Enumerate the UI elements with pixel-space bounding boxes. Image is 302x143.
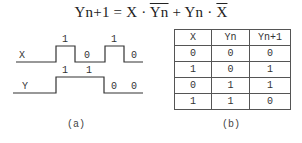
table-row: 0 0 0 (175, 46, 291, 62)
x-waveform (16, 46, 143, 62)
formula-term2-yn: Yn (185, 4, 204, 20)
truth-table: X Yn Yn+1 0 0 0 1 0 1 0 1 1 1 1 0 (174, 29, 291, 110)
x-level-label: 0 (84, 50, 90, 61)
y-level-label: 0 (111, 81, 117, 92)
table-row: 1 0 1 (175, 62, 291, 78)
x-level-label: 0 (131, 50, 137, 61)
table-row: 0 1 1 (175, 78, 291, 94)
header-x: X (175, 30, 212, 46)
y-level-label: 0 (131, 81, 137, 92)
header-yn: Yn (212, 30, 250, 46)
x-level-label: 1 (111, 34, 117, 45)
y-signal-label: Y (22, 81, 28, 92)
caption-a: (a) (67, 119, 85, 130)
x-level-label: 1 (62, 34, 68, 45)
caption-b: (b) (222, 119, 240, 130)
y-level-label: 1 (86, 65, 92, 76)
table-row: 1 1 0 (175, 94, 291, 110)
table-header-row: X Yn Yn+1 (175, 30, 291, 46)
y-waveform (13, 77, 143, 93)
x-signal-label: X (19, 50, 25, 61)
formula-term2-x-bar: X (216, 4, 227, 20)
header-yn1: Yn+1 (250, 30, 291, 46)
y-level-label: 1 (62, 65, 68, 76)
